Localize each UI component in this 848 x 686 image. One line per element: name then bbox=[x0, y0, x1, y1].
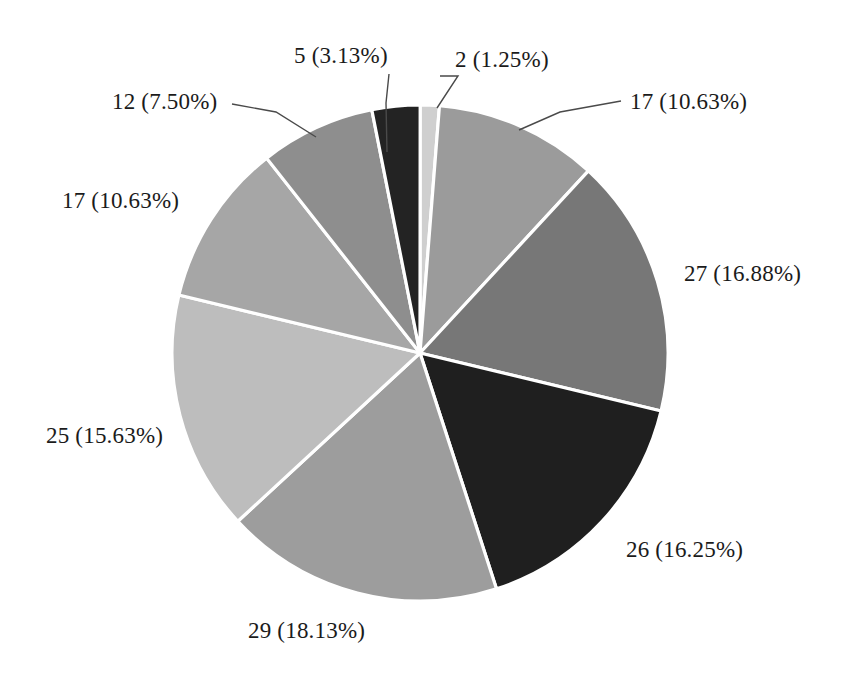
pie-label-27: 27 (16.88%) bbox=[684, 262, 801, 285]
pie-label-12: 12 (7.50%) bbox=[112, 90, 217, 113]
pie-label-17-right: 17 (10.63%) bbox=[630, 90, 747, 113]
pie-label-17-left: 17 (10.63%) bbox=[62, 189, 179, 212]
pie-label-29: 29 (18.13%) bbox=[248, 619, 365, 642]
leader-line-17-right bbox=[519, 101, 621, 130]
pie-chart-figure: 5 (3.13%)2 (1.25%)17 (10.63%)27 (16.88%)… bbox=[0, 0, 848, 686]
leader-line-12 bbox=[232, 104, 316, 137]
leader-line-2 bbox=[437, 76, 458, 108]
pie-label-5: 5 (3.13%) bbox=[294, 44, 388, 67]
pie-slices-group bbox=[172, 105, 668, 601]
pie-label-2: 2 (1.25%) bbox=[455, 48, 549, 71]
pie-label-26: 26 (16.25%) bbox=[626, 538, 743, 561]
pie-label-25: 25 (15.63%) bbox=[46, 424, 163, 447]
